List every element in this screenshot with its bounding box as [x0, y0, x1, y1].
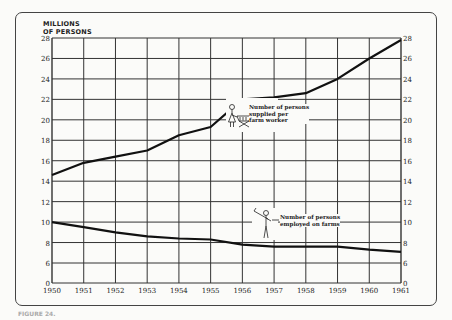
svg-text:14: 14: [403, 178, 412, 186]
y-axis-left-ticks: 28262422201816141210860: [41, 35, 50, 288]
svg-text:28: 28: [403, 35, 412, 43]
legend-employed-on-farms: Number of persons employed on farms: [280, 214, 340, 227]
series-employed-on-farms: [52, 222, 401, 252]
svg-text:22: 22: [41, 96, 50, 104]
legend-text: employed on farms: [280, 221, 340, 228]
svg-text:6: 6: [46, 260, 51, 268]
svg-text:20: 20: [403, 117, 412, 125]
x-axis-ticks: 1950195119521953195419551956195719581959…: [43, 287, 410, 295]
y-axis-right-ticks: 28262422201816141210860: [403, 35, 412, 288]
svg-text:1958: 1958: [297, 287, 315, 295]
svg-text:14: 14: [41, 178, 50, 186]
svg-text:8: 8: [46, 240, 50, 248]
svg-text:18: 18: [403, 137, 412, 145]
svg-text:28: 28: [41, 35, 50, 43]
grid: [52, 38, 401, 283]
legend-text: supplied per: [249, 111, 309, 118]
legend-supplied-per-worker: Number of persons supplied per farm work…: [249, 104, 309, 124]
svg-text:18: 18: [41, 137, 50, 145]
svg-text:26: 26: [41, 55, 50, 63]
svg-text:1951: 1951: [75, 287, 93, 295]
svg-text:16: 16: [41, 158, 50, 166]
svg-text:10: 10: [403, 219, 412, 227]
svg-text:1954: 1954: [170, 287, 188, 295]
svg-text:20: 20: [41, 117, 50, 125]
svg-text:1957: 1957: [265, 287, 283, 295]
svg-text:12: 12: [403, 199, 412, 207]
svg-text:1961: 1961: [392, 287, 410, 295]
line-chart: 2826242220181614121086028262422201816141…: [0, 0, 452, 320]
svg-text:1956: 1956: [233, 287, 251, 295]
svg-text:12: 12: [41, 199, 50, 207]
svg-text:16: 16: [403, 158, 412, 166]
svg-text:1950: 1950: [43, 287, 61, 295]
svg-text:22: 22: [403, 96, 412, 104]
legend-text: Number of persons: [249, 104, 309, 111]
svg-text:1955: 1955: [202, 287, 220, 295]
farmer-with-hoe-icon: [252, 208, 279, 240]
svg-text:6: 6: [403, 260, 408, 268]
legend-text: Number of persons: [280, 214, 340, 221]
figure-caption: FIGURE 24.: [18, 310, 56, 317]
svg-text:24: 24: [403, 76, 412, 84]
svg-text:8: 8: [403, 240, 407, 248]
svg-text:1960: 1960: [360, 287, 378, 295]
svg-text:24: 24: [41, 76, 50, 84]
legend-text: farm worker: [249, 117, 309, 124]
svg-text:26: 26: [403, 55, 412, 63]
svg-text:10: 10: [41, 219, 50, 227]
svg-text:1953: 1953: [138, 287, 156, 295]
svg-text:1959: 1959: [329, 287, 347, 295]
svg-text:1952: 1952: [107, 287, 125, 295]
